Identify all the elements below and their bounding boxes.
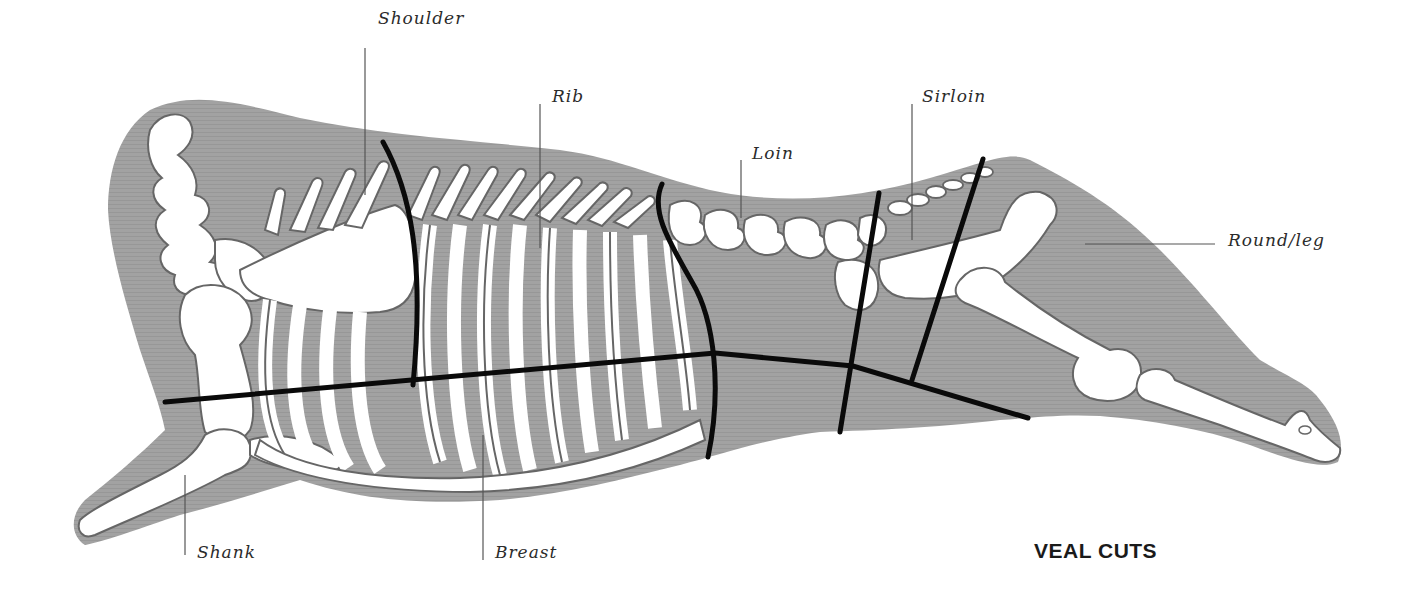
- hock-joint: [1299, 426, 1311, 434]
- diagram-title: VEAL CUTS: [1034, 539, 1157, 563]
- veal-cuts-diagram: Shoulder Rib Loin Sirloin Round/leg Shan…: [0, 0, 1420, 591]
- label-sirloin: Sirloin: [922, 86, 986, 106]
- label-round-leg: Round/leg: [1228, 230, 1325, 250]
- label-loin: Loin: [752, 143, 794, 163]
- carcass-illustration: [0, 0, 1420, 591]
- label-shoulder: Shoulder: [378, 8, 464, 28]
- label-rib: Rib: [552, 86, 584, 106]
- label-breast: Breast: [495, 542, 557, 562]
- label-shank: Shank: [197, 542, 256, 562]
